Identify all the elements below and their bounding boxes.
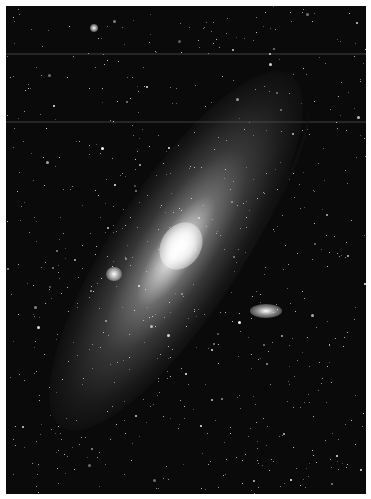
star [306, 468, 307, 469]
star [150, 34, 151, 35]
bright-star [90, 24, 98, 32]
star [345, 170, 346, 171]
star [61, 439, 62, 440]
star [117, 101, 118, 102]
star [293, 74, 294, 75]
star [149, 42, 150, 43]
star [365, 49, 366, 50]
star [282, 215, 283, 216]
star [202, 453, 203, 454]
star [137, 151, 138, 152]
star [149, 317, 150, 318]
star [239, 118, 240, 119]
star [10, 377, 11, 378]
star [242, 483, 243, 484]
star [158, 488, 159, 489]
star [237, 397, 238, 398]
star [341, 82, 342, 83]
star [293, 447, 294, 448]
star [323, 148, 324, 149]
star [120, 175, 121, 176]
star [132, 125, 133, 126]
star [284, 483, 285, 484]
star [17, 191, 18, 192]
star [28, 88, 29, 89]
star [112, 158, 113, 159]
star [138, 112, 139, 113]
star [240, 408, 241, 409]
star [163, 478, 164, 479]
star [314, 101, 315, 102]
star [238, 321, 241, 324]
star [205, 489, 206, 490]
star [165, 212, 166, 213]
star [205, 106, 206, 107]
star [251, 368, 252, 369]
star [19, 374, 20, 375]
star [95, 254, 96, 255]
star [322, 209, 323, 210]
star [288, 264, 289, 265]
star [335, 338, 336, 339]
star [198, 40, 199, 41]
star [272, 342, 273, 343]
star [124, 474, 125, 475]
star [49, 289, 50, 290]
star [38, 492, 39, 493]
star [263, 26, 264, 27]
star [114, 184, 116, 186]
star [59, 278, 60, 279]
star [147, 241, 148, 242]
star [10, 77, 11, 78]
star [345, 424, 346, 425]
star [260, 294, 261, 295]
star [52, 267, 54, 269]
star [15, 445, 16, 446]
star [362, 426, 363, 427]
star [198, 217, 200, 219]
star [129, 334, 130, 335]
star [360, 469, 362, 471]
star [217, 333, 219, 335]
star [338, 96, 339, 97]
star [270, 28, 271, 29]
star [306, 74, 307, 75]
star [360, 81, 361, 82]
star [13, 341, 14, 342]
star [41, 75, 42, 76]
star [130, 217, 131, 218]
star [122, 27, 123, 28]
star [267, 426, 268, 427]
star [231, 292, 232, 293]
star [275, 169, 276, 170]
star [246, 201, 247, 202]
star [251, 318, 252, 319]
star [21, 206, 22, 207]
star [354, 108, 355, 109]
star [59, 157, 60, 158]
star [258, 359, 259, 360]
star [218, 363, 219, 364]
star [76, 141, 77, 142]
star [291, 21, 292, 22]
star [42, 46, 43, 47]
star [11, 294, 12, 295]
star [44, 185, 45, 186]
star [60, 433, 61, 434]
star [275, 29, 276, 30]
star [34, 373, 35, 374]
star [256, 422, 257, 423]
star [176, 88, 177, 89]
star [246, 227, 247, 228]
star [258, 487, 259, 488]
star [156, 488, 157, 489]
star [138, 285, 140, 287]
star [24, 111, 25, 112]
star [169, 302, 170, 303]
star [215, 420, 216, 421]
star [102, 102, 103, 103]
star [337, 461, 338, 462]
star [158, 381, 159, 382]
star [135, 415, 137, 417]
star [137, 227, 138, 228]
